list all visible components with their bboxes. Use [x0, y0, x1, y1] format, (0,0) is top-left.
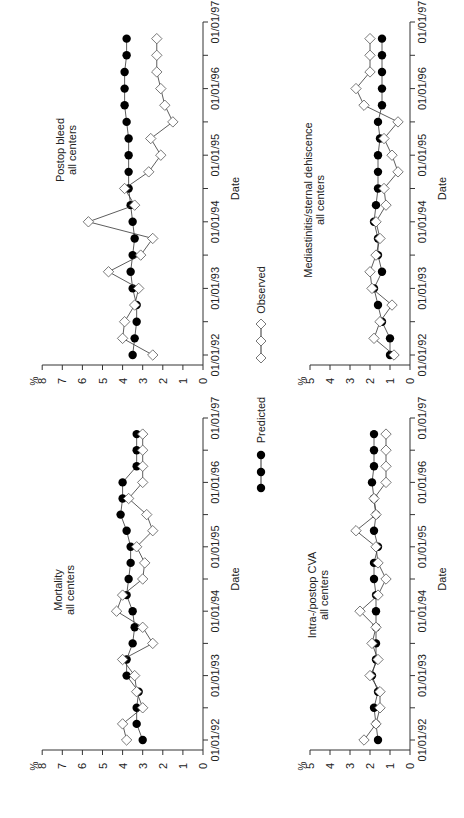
- predicted-point: [120, 101, 128, 109]
- y-tick-label: 7: [56, 378, 68, 384]
- legend-observed-label: Observed: [255, 266, 267, 314]
- observed-point: [138, 622, 148, 632]
- y-tick-label: 6: [76, 763, 88, 769]
- observed-point: [375, 703, 385, 713]
- predicted-point: [374, 736, 382, 744]
- observed-point: [351, 83, 361, 93]
- predicted-point: [372, 201, 380, 209]
- predicted-point: [378, 84, 386, 92]
- predicted-point: [124, 151, 132, 159]
- observed-point: [117, 333, 127, 343]
- y-axis-label: %: [29, 761, 40, 770]
- observed-point: [148, 350, 158, 360]
- y-tick-label: 1: [177, 378, 189, 384]
- y-tick-label: 4: [324, 763, 336, 769]
- observed-point: [138, 574, 148, 584]
- y-tick-label: 3: [344, 378, 356, 384]
- legend: PredictedObserved: [255, 266, 267, 492]
- y-tick-label: 0: [404, 763, 416, 769]
- predicted-point: [372, 607, 380, 615]
- observed-point: [393, 117, 403, 127]
- y-tick-label: 3: [344, 763, 356, 769]
- predicted-point: [124, 575, 132, 583]
- observed-point: [365, 50, 375, 60]
- predicted-point: [120, 84, 128, 92]
- x-tick-label: 01/01/97: [209, 397, 221, 440]
- predicted-point: [118, 478, 126, 486]
- y-tick-label: 2: [364, 763, 376, 769]
- observed-point: [369, 493, 379, 503]
- x-tick-label: 01/01/96: [209, 461, 221, 504]
- x-tick-label: 01/01/93: [416, 267, 428, 310]
- chart-subtitle: all centers: [314, 174, 326, 225]
- x-tick-label: 01/01/97: [209, 1, 221, 44]
- chart-title: Mortality: [52, 569, 64, 611]
- chart-canvas: 012345678%01/01/9201/01/9301/01/9401/01/…: [0, 0, 464, 818]
- observed-point: [359, 735, 369, 745]
- mediastinitis-chart: 012345%01/01/9201/01/9301/01/9401/01/950…: [297, 1, 448, 386]
- postop-bleed-chart: 012345678%01/01/9201/01/9301/01/9401/01/…: [29, 1, 241, 386]
- observed-point: [146, 133, 156, 143]
- observed-point: [160, 100, 170, 110]
- observed-point: [369, 333, 379, 343]
- y-tick-label: 0: [404, 378, 416, 384]
- observed-point: [138, 703, 148, 713]
- observed-point: [381, 445, 391, 455]
- y-tick-label: 0: [197, 763, 209, 769]
- chart-subtitle: all centers: [318, 569, 330, 620]
- observed-point: [371, 719, 381, 729]
- predicted-point: [378, 101, 386, 109]
- x-tick-label: 01/01/92: [209, 334, 221, 377]
- observed-point: [371, 509, 381, 519]
- chart-title: Postop bleed: [54, 118, 66, 182]
- observed-point: [381, 574, 391, 584]
- observed-point: [119, 317, 129, 327]
- observed-point: [152, 33, 162, 43]
- predicted-legend-icon: [257, 451, 265, 459]
- predicted-point: [128, 351, 136, 359]
- predicted-point: [378, 268, 386, 276]
- observed-point: [135, 250, 145, 260]
- predicted-point: [374, 118, 382, 126]
- x-tick-label: 01/01/96: [416, 67, 428, 110]
- observed-point: [379, 183, 389, 193]
- observed-point: [168, 117, 178, 127]
- observed-point: [138, 461, 148, 471]
- observed-point: [138, 429, 148, 439]
- y-tick-label: 4: [117, 763, 129, 769]
- legend-predicted-label: Predicted: [255, 397, 267, 443]
- observed-point: [359, 100, 369, 110]
- y-tick-label: 1: [384, 763, 396, 769]
- y-tick-label: 4: [117, 378, 129, 384]
- observed-point: [148, 233, 158, 243]
- predicted-legend-icon: [257, 484, 265, 492]
- predicted-point: [374, 168, 382, 176]
- x-tick-label: 01/01/95: [209, 134, 221, 177]
- y-tick-label: 7: [56, 763, 68, 769]
- x-tick-label: 01/01/93: [209, 267, 221, 310]
- observed-point: [387, 150, 397, 160]
- predicted-point: [126, 559, 134, 567]
- y-tick-label: 1: [177, 763, 189, 769]
- predicted-point: [122, 118, 130, 126]
- chart-title: Mediastinitis/sternal dehiscence: [302, 122, 314, 277]
- y-tick-label: 2: [364, 378, 376, 384]
- predicted-point: [132, 720, 140, 728]
- x-tick-label: 01/01/95: [209, 525, 221, 568]
- observed-point: [148, 638, 158, 648]
- x-tick-label: 01/01/92: [209, 719, 221, 762]
- observed-point: [351, 526, 361, 536]
- observed-legend-icon: [256, 319, 266, 329]
- predicted-point: [116, 510, 124, 518]
- predicted-point: [370, 527, 378, 535]
- observed-point: [365, 267, 375, 277]
- x-tick-label: 01/01/97: [416, 1, 428, 44]
- predicted-point: [370, 462, 378, 470]
- x-tick-label: 01/01/94: [416, 200, 428, 243]
- observed-point: [121, 735, 131, 745]
- y-tick-label: 5: [97, 763, 109, 769]
- x-tick-label: 01/01/93: [416, 654, 428, 697]
- predicted-point: [378, 51, 386, 59]
- observed-point: [381, 200, 391, 210]
- x-tick-label: 01/01/93: [209, 654, 221, 697]
